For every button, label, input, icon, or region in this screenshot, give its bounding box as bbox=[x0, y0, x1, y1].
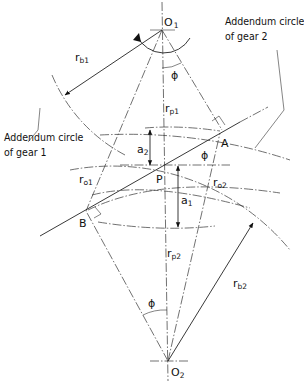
pitch-arc-bottom bbox=[98, 222, 215, 228]
leader-gear2 bbox=[255, 50, 284, 148]
right-angle-b bbox=[94, 207, 101, 218]
label-rp1: rp1 bbox=[165, 102, 179, 116]
label-o2: O2 bbox=[171, 366, 185, 380]
label-rb2: rb2 bbox=[233, 277, 247, 291]
note-addendum-gear2-line1: Addendum circle bbox=[225, 15, 304, 27]
label-phi-mid: ϕ bbox=[201, 149, 208, 162]
label-ro1: ro1 bbox=[79, 173, 93, 187]
label-rp2: rp2 bbox=[167, 247, 181, 261]
phi-arc-bottom bbox=[143, 310, 167, 315]
phi-arc-top bbox=[162, 63, 181, 68]
label-o1: O1 bbox=[164, 16, 179, 30]
pitch-arc-top bbox=[145, 127, 220, 131]
note-addendum-gear1-line2: of gear 1 bbox=[4, 146, 47, 158]
o1-b-line bbox=[86, 30, 162, 211]
label-phi-top: ϕ bbox=[171, 69, 178, 82]
label-p: P bbox=[156, 173, 163, 186]
note-addendum-gear1-line1: Addendum circle bbox=[4, 131, 84, 143]
line-of-action-ext bbox=[240, 107, 268, 122]
rb2-line bbox=[168, 223, 253, 361]
label-rb1: rb1 bbox=[75, 51, 89, 65]
label-a1: a1 bbox=[181, 194, 193, 208]
label-a2: a2 bbox=[137, 143, 149, 157]
o2-a-line bbox=[168, 133, 220, 361]
gear-geometry-diagram: O1 O2 P A B rb1 rp1 ro1 ro2 rp2 rb2 a2 a… bbox=[0, 0, 304, 381]
rotation-arrowhead-icon bbox=[133, 33, 141, 42]
note-addendum-gear2-line2: of gear 2 bbox=[225, 30, 268, 42]
base-circle-gear1 bbox=[52, 75, 125, 155]
label-ro2: ro2 bbox=[213, 176, 227, 190]
o2-b-line bbox=[86, 211, 168, 361]
base-circle-gear2 bbox=[70, 166, 290, 250]
label-a: A bbox=[221, 137, 229, 150]
label-phi-bottom: ϕ bbox=[148, 297, 155, 310]
label-b: B bbox=[79, 217, 87, 230]
rotation-arrow-icon bbox=[137, 36, 190, 53]
